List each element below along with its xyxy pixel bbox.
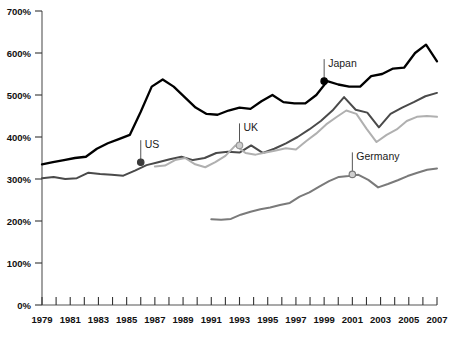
x-tick-label: 1993 [229,314,250,325]
callout-marker-germany [349,171,355,177]
callout-label-japan: Japan [328,57,357,69]
x-tick-label: 1991 [201,314,223,325]
line-chart: 0%100%200%300%400%500%600%700% 197919811… [0,0,455,340]
y-tick-label: 300% [7,174,32,185]
callout-label-us: US [145,138,160,150]
y-tick-label: 200% [7,216,32,227]
y-tick-label: 700% [7,6,32,17]
x-tick-label: 1987 [144,314,165,325]
x-tick-label: 1995 [257,314,279,325]
x-tick-label: 2007 [426,314,447,325]
y-axis: 0%100%200%300%400%500%600%700% [7,6,42,311]
y-tick-label: 400% [7,132,32,143]
x-tick-label: 1997 [285,314,306,325]
x-tick-label: 1989 [173,314,194,325]
callout-marker-us [138,159,144,165]
x-tick-label: 2003 [370,314,391,325]
chart-canvas: 0%100%200%300%400%500%600%700% 197919811… [0,0,455,340]
x-tick-label: 1999 [314,314,335,325]
callout-label-germany: Germany [356,150,400,162]
x-axis: 1979198119831985198719891991199319951997… [31,297,447,325]
y-tick-label: 500% [7,90,32,101]
x-tick-label: 1981 [60,314,82,325]
x-tick-label: 2001 [342,314,364,325]
x-tick-label: 1979 [31,314,52,325]
y-tick-label: 0% [17,300,31,311]
x-tick-label: 1985 [116,314,138,325]
series-line-germany [211,169,437,220]
x-tick-label: 2005 [398,314,420,325]
callout-marker-uk [236,142,242,148]
callout-label-uk: UK [244,121,259,133]
y-tick-label: 100% [7,258,32,269]
y-tick-label: 600% [7,48,32,59]
x-tick-label: 1983 [88,314,109,325]
callout-marker-japan [321,78,327,84]
